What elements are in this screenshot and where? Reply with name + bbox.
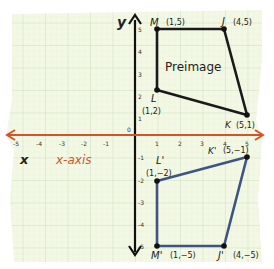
svg-text:-4: -4	[36, 140, 42, 147]
svg-text:-3: -3	[59, 140, 65, 147]
svg-text:-1: -1	[103, 140, 109, 147]
x-axis-label: x	[19, 152, 29, 167]
y-axis-label: y	[117, 14, 127, 30]
point-k-prime-name: K'	[208, 146, 216, 156]
svg-text:5: 5	[138, 26, 142, 33]
point-m-prime-name: M'	[151, 250, 162, 261]
svg-text:1: 1	[138, 115, 142, 122]
point-j-prime	[221, 243, 227, 249]
svg-text:-3: -3	[138, 199, 144, 206]
svg-text:-2: -2	[138, 177, 144, 184]
point-m-prime	[154, 243, 160, 249]
point-l	[154, 87, 160, 93]
svg-text:-5: -5	[138, 243, 144, 250]
point-l-prime	[154, 178, 160, 184]
svg-text:-4: -4	[138, 221, 144, 228]
point-k-prime-coords: (5,−1)	[223, 146, 249, 155]
svg-text:1: 1	[155, 140, 159, 147]
svg-text:2: 2	[138, 93, 142, 100]
point-j	[221, 26, 227, 32]
svg-text:3: 3	[200, 140, 204, 147]
origin-label: 0	[127, 126, 131, 133]
preimage-label: Preimage	[165, 60, 221, 74]
point-l-prime-name: L'	[156, 155, 164, 166]
point-m-coords: (1,5)	[166, 18, 185, 27]
svg-text:-2: -2	[81, 140, 87, 147]
point-j-prime-coords: (4,−5)	[233, 251, 259, 260]
svg-text:2: 2	[178, 140, 182, 147]
point-m-name: M	[150, 17, 159, 28]
svg-text:-1: -1	[138, 154, 144, 161]
svg-text:-5: -5	[13, 140, 19, 147]
x-axis-caption: x-axis	[55, 153, 91, 167]
point-l-name: L	[151, 93, 157, 104]
point-l-prime-coords: (1,−2)	[146, 169, 172, 178]
svg-text:3: 3	[138, 71, 142, 78]
point-k	[244, 112, 250, 118]
point-j-prime-name: J'	[216, 250, 224, 261]
svg-text:4: 4	[138, 48, 142, 55]
point-j-coords: (4,5)	[233, 18, 252, 27]
point-m-prime-coords: (1,−5)	[170, 251, 196, 260]
point-k-coords: (5,1)	[236, 121, 255, 130]
point-l-coords: (1,2)	[142, 107, 161, 116]
coordinate-plane-figure: y 0 x x-axis -5 -4 -3 -2 -1 1 2 3 4 5 5 …	[0, 0, 274, 269]
point-k-prime	[244, 154, 250, 160]
